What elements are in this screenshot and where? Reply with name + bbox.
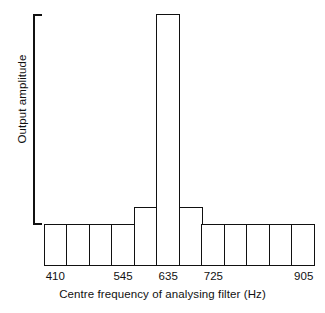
x-tick-label: 725 xyxy=(204,270,223,282)
x-axis-title: Centre frequency of analysing filter (Hz… xyxy=(0,288,325,300)
x-axis-tick-labels: 410545635725905 xyxy=(0,0,325,313)
x-tick-label: 905 xyxy=(294,270,313,282)
figure-histogram: Output amplitude 410545635725905 Centre … xyxy=(0,0,325,313)
x-tick-label: 635 xyxy=(159,270,178,282)
x-tick-label: 410 xyxy=(46,270,65,282)
x-tick-label: 545 xyxy=(113,270,132,282)
